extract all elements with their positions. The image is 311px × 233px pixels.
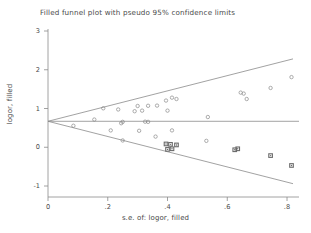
x-axis-tick-label: 0 bbox=[38, 203, 58, 211]
funnel-plot-figure: Filled funnel plot with pseudo 95% confi… bbox=[0, 0, 311, 233]
data-point-observed bbox=[109, 129, 112, 132]
data-point-observed bbox=[136, 104, 139, 107]
x-axis-tick-label: .6 bbox=[217, 203, 237, 211]
data-point-observed bbox=[170, 129, 173, 132]
data-point-observed bbox=[137, 129, 140, 132]
x-axis-ticks bbox=[48, 197, 287, 201]
observed-study-markers bbox=[72, 75, 294, 142]
x-axis-tick-label: .8 bbox=[277, 203, 297, 211]
data-point-imputed-center bbox=[291, 165, 292, 166]
data-point-observed bbox=[170, 96, 173, 99]
data-point-imputed-center bbox=[234, 149, 235, 150]
data-point-observed bbox=[93, 118, 96, 121]
x-axis-tick-label: .2 bbox=[98, 203, 118, 211]
y-axis-tick-label: 2 bbox=[22, 66, 40, 74]
data-point-observed bbox=[117, 108, 120, 111]
y-axis-tick-label: 3 bbox=[22, 27, 40, 35]
imputed-study-markers bbox=[164, 142, 293, 167]
confidence-limit-line-upper bbox=[48, 59, 293, 121]
data-point-observed bbox=[155, 104, 158, 107]
data-point-imputed-center bbox=[171, 148, 172, 149]
y-axis-tick-label: -1 bbox=[22, 182, 40, 190]
data-point-observed bbox=[166, 109, 169, 112]
data-point-observed bbox=[290, 75, 293, 78]
data-point-observed bbox=[205, 139, 208, 142]
plot-area bbox=[0, 0, 311, 233]
data-point-imputed-center bbox=[237, 148, 238, 149]
y-axis-ticks bbox=[44, 31, 48, 186]
data-point-observed bbox=[269, 86, 272, 89]
y-axis-tick-label: 0 bbox=[22, 143, 40, 151]
data-point-imputed-center bbox=[176, 144, 177, 145]
data-point-observed bbox=[146, 104, 149, 107]
data-point-observed bbox=[133, 110, 136, 113]
data-point-observed bbox=[206, 115, 209, 118]
y-axis-tick-label: 1 bbox=[22, 105, 40, 113]
axis-lines bbox=[48, 29, 299, 197]
data-point-imputed-center bbox=[170, 144, 171, 145]
data-point-observed bbox=[154, 135, 157, 138]
x-axis-tick-label: .4 bbox=[158, 203, 178, 211]
data-point-observed bbox=[164, 99, 167, 102]
data-point-observed bbox=[175, 97, 178, 100]
data-point-imputed-center bbox=[165, 143, 166, 144]
data-point-imputed-center bbox=[270, 155, 271, 156]
data-point-observed bbox=[245, 97, 248, 100]
data-point-observed bbox=[72, 124, 75, 127]
data-point-observed bbox=[140, 109, 143, 112]
data-point-imputed-center bbox=[167, 149, 168, 150]
